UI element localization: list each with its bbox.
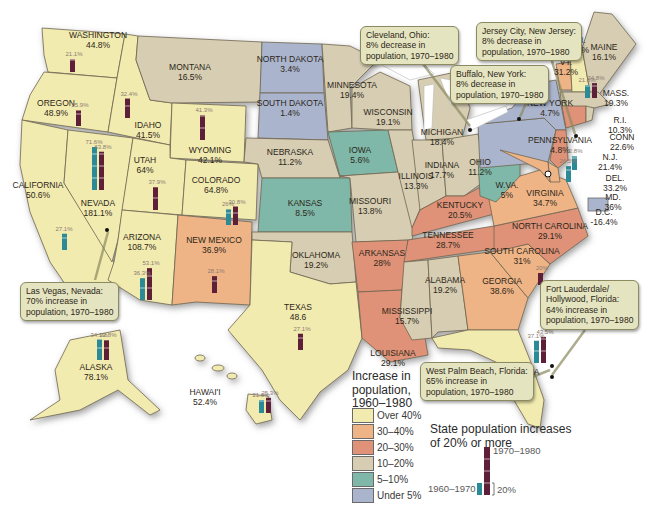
state-label-nebraska: Nebraska11.2% — [267, 148, 313, 167]
state-value: 28% — [359, 258, 405, 268]
city-dot-west-palm — [550, 364, 554, 368]
state-value: 31.2% — [554, 67, 578, 77]
state-label-hawaii: Hawai'i52.4% — [189, 388, 220, 407]
state-label-missouri: Missouri13.8% — [349, 197, 391, 216]
state-value: 181.1% — [81, 208, 115, 218]
state-label-connecticut: Conn22.6% — [609, 133, 634, 152]
state-value: 29.1% — [370, 358, 415, 368]
state-label-louisiana: Louisiana29.1% — [370, 349, 415, 368]
state-label-north-dakota: North Dakota3.4% — [257, 55, 324, 74]
state-value: 1.4% — [257, 108, 323, 118]
state-value: 16.1% — [591, 52, 618, 62]
bar-value-label: 22.8% — [565, 148, 582, 154]
state-label-kansas: Kansas8.5% — [288, 199, 323, 218]
state-label-wisconsin: Wisconsin19.1% — [363, 108, 412, 127]
state-label-texas: Texas48.6 — [284, 303, 312, 322]
state-label-west-virginia: W.Va.5% — [496, 181, 519, 200]
state-label-colorado: Colorado64.8% — [192, 176, 241, 195]
state-label-alaska: Alaska78.1% — [79, 363, 112, 382]
bar-1970-1980 — [200, 115, 205, 140]
state-value: 17.7% — [425, 170, 459, 180]
state-label-mississippi: Mississippi15.7% — [382, 307, 433, 326]
city-dot-buffalo — [517, 117, 521, 121]
legend-swatch — [352, 472, 374, 487]
bar-legend-graphic — [477, 447, 494, 495]
state-label-minnesota: Minnesota19.4% — [327, 81, 377, 100]
state-label-wyoming: Wyoming42.1% — [189, 146, 232, 165]
state-label-idaho: Idaho41.5% — [135, 121, 162, 140]
bar-1970-1980 — [298, 334, 303, 350]
state-label-maine: Maine16.1% — [591, 43, 618, 62]
state-label-washington: Washington44.8% — [69, 31, 127, 50]
state-value: 19.4% — [327, 90, 377, 100]
callout-cleveland: Cleveland, Ohio: 8% decrease in populati… — [360, 26, 459, 65]
legend-item: Over 40% — [352, 408, 421, 422]
bar-1970-1980 — [541, 337, 546, 363]
state-label-virginia: Virginia34.7% — [526, 189, 563, 208]
bar-1960-1970 — [566, 166, 571, 182]
legend-item: 5–10% — [352, 472, 408, 486]
bar-1960-1970 — [585, 85, 590, 98]
bar-1970-1980 — [592, 83, 597, 98]
state-value: 19.1% — [363, 117, 412, 127]
state-value: 11.2% — [468, 167, 491, 177]
state-value: 108.7% — [123, 242, 161, 252]
bar-value-label: 20% — [536, 265, 548, 271]
bar-value-label: 26.5% — [559, 158, 576, 164]
state-value: 20.5% — [437, 210, 483, 220]
bar-1970-1980 — [125, 99, 130, 118]
state-value: 15.7% — [382, 316, 433, 326]
city-dot-fort-lauderdale — [550, 375, 554, 379]
bar-1960-1970 — [140, 278, 145, 300]
callout-fort-lauderdale: Fort Lauderdale/ Hollywood, Florida: 64%… — [540, 280, 639, 330]
state-label-massachusetts: Mass.19.3% — [603, 89, 629, 108]
callout-pointer-fort-lauderdale — [552, 330, 585, 375]
state-value: 34.7% — [526, 198, 563, 208]
bar-value-label: 25.3% — [261, 390, 278, 396]
state-value: 48.6 — [284, 312, 312, 322]
callout-jersey-city: Jersey City, New Jersey: 8% decrease in … — [476, 22, 582, 61]
bar-1970-1980 — [104, 340, 109, 360]
scale-bracket — [492, 483, 494, 495]
city-dot-las-vegas — [105, 228, 109, 232]
legend-item: 20–30% — [352, 440, 414, 454]
state-value: 64.8% — [192, 185, 241, 195]
legend-item: Under 5% — [352, 488, 421, 502]
bar-value-label: 24.8% — [587, 75, 604, 81]
state-hawaii-islands — [227, 373, 237, 379]
state-value: 44.8% — [69, 40, 127, 50]
bar-value-label: 32.8% — [99, 332, 116, 338]
bar-legend-scale-label: 20% — [497, 484, 516, 495]
state-label-georgia: Georgia38.6% — [482, 277, 522, 296]
city-dot-cleveland — [468, 128, 472, 132]
state-label-south-dakota: South Dakota1.4% — [257, 99, 323, 118]
bar-value-label: 32.4% — [120, 91, 137, 97]
state-label-south-carolina: South Carolina31% — [484, 247, 560, 266]
state-rhode-island — [586, 106, 594, 122]
callout-west-palm-beach: West Palm Beach, Florida: 65% increase i… — [420, 362, 534, 401]
state-value: 3.4% — [257, 64, 324, 74]
state-value: -16.4% — [591, 217, 618, 227]
bar-value-label: 28.1% — [207, 268, 224, 274]
bar-1960-1970 — [226, 209, 231, 225]
bar-1960-1970 — [259, 400, 264, 413]
state-label-north-carolina: North Carolina29.1% — [512, 222, 588, 241]
state-label-oklahoma: Oklahoma19.2% — [292, 251, 340, 270]
bar-legend-1960-1970-label: 1960–1970 — [428, 483, 476, 494]
state-value: 36.9% — [186, 245, 242, 255]
state-label-dc: D.C.-16.4% — [591, 208, 618, 227]
state-value: 22.6% — [609, 142, 634, 152]
state-label-kentucky: Kentucky20.5% — [437, 201, 483, 220]
state-value: 29.1% — [512, 231, 588, 241]
state-label-michigan: Michigan18.4% — [421, 128, 464, 147]
state-value: 28.7% — [422, 240, 474, 250]
bar-value-label: 43.5% — [536, 329, 553, 335]
bar-1970-1980 — [76, 110, 81, 126]
state-value: 19.2% — [292, 260, 340, 270]
state-label-new-jersey: N.J.21.4% — [598, 153, 622, 172]
callout-las-vegas: Las Vegas, Nevada: 70% increase in popul… — [20, 282, 119, 321]
bar-value-label: 36.3% — [133, 270, 150, 276]
state-value: 21.4% — [598, 162, 622, 172]
bar-1960-1970 — [534, 341, 539, 363]
bar-value-label: 53.1% — [142, 260, 159, 266]
